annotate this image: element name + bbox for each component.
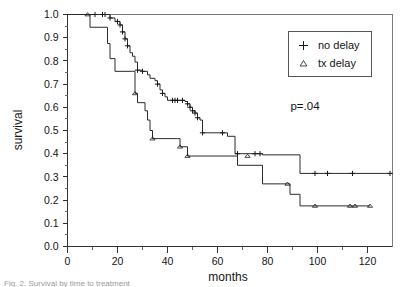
y-tick-label: 0.1: [44, 217, 59, 229]
censor-plus-marker: [125, 43, 130, 48]
censor-plus-marker: [140, 69, 145, 74]
censor-plus-marker: [180, 98, 185, 103]
censor-plus-marker: [175, 98, 180, 103]
figure-caption: Fig. 2. Survival by time to treatment: [4, 279, 131, 287]
censor-plus-marker: [122, 36, 127, 41]
y-tick-label: 0.9: [44, 31, 59, 43]
x-tick-label: 20: [112, 255, 124, 267]
y-tick-label: 0.0: [44, 240, 59, 252]
censor-plus-marker: [115, 19, 120, 24]
censor-plus-marker: [92, 12, 97, 17]
censor-plus-marker: [117, 22, 122, 27]
censor-plus-marker: [155, 82, 160, 87]
y-tick-label: 0.3: [44, 171, 59, 183]
legend-label-tx-delay: tx delay: [318, 57, 356, 69]
y-tick-label: 0.4: [44, 147, 59, 159]
legend-label-no-delay: no delay: [318, 39, 360, 51]
x-tick-label: 80: [262, 255, 274, 267]
censor-plus-marker: [195, 115, 200, 120]
censor-triangle-marker: [245, 154, 250, 157]
x-tick-label: 60: [212, 255, 224, 267]
censor-plus-marker: [187, 105, 192, 110]
x-axis-tick-labels: 020406080100120: [65, 255, 377, 267]
y-tick-label: 0.5: [44, 124, 59, 136]
censor-plus-marker: [200, 130, 205, 135]
survival-figure: 0.00.10.20.30.40.50.60.70.80.91.0 020406…: [0, 0, 405, 287]
p-value-annotation: p=.04: [290, 100, 320, 112]
y-tick-label: 0.2: [44, 194, 59, 206]
y-tick-label: 0.7: [44, 78, 59, 90]
y-tick-label: 1.0: [44, 8, 59, 20]
kaplan-meier-chart: 0.00.10.20.30.40.50.60.70.80.91.0 020406…: [0, 0, 405, 287]
censor-plus-marker: [220, 130, 225, 135]
censor-plus-marker: [252, 151, 257, 156]
x-tick-label: 120: [359, 255, 377, 267]
y-tick-label: 0.8: [44, 55, 59, 67]
censor-plus-marker: [102, 12, 107, 17]
y-axis-title: survival: [11, 110, 25, 151]
x-axis-title: months: [208, 270, 247, 284]
y-tick-label: 0.6: [44, 101, 59, 113]
censor-plus-marker: [387, 171, 392, 176]
censor-plus-marker: [160, 91, 165, 96]
chart-legend[interactable]: no delay tx delay: [289, 32, 372, 77]
censor-plus-marker: [350, 171, 355, 176]
censor-plus-marker: [120, 29, 125, 34]
y-axis-tick-labels: 0.00.10.20.30.40.50.60.70.80.91.0: [44, 8, 59, 252]
censor-plus-marker: [257, 151, 262, 156]
censor-plus-marker: [312, 171, 317, 176]
censor-plus-marker: [107, 15, 112, 20]
censor-plus-marker: [135, 68, 140, 73]
x-tick-label: 0: [65, 255, 71, 267]
x-tick-label: 100: [309, 255, 327, 267]
censor-plus-marker: [325, 171, 330, 176]
x-tick-label: 40: [162, 255, 174, 267]
